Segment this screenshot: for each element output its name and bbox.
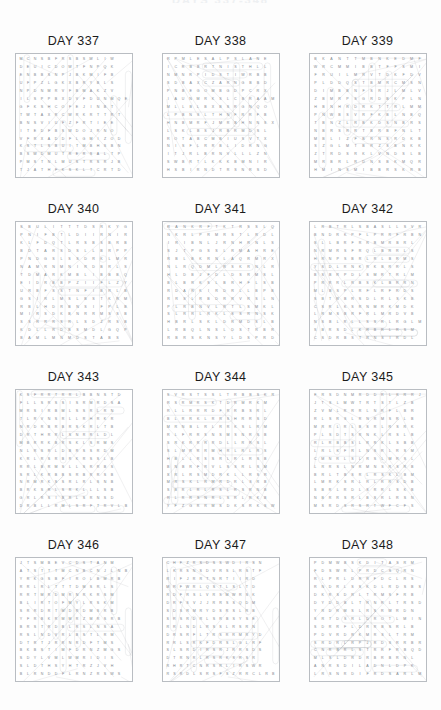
grid-letter: B	[341, 440, 348, 448]
grid-letter: S	[90, 224, 98, 232]
grid-letter: B	[181, 327, 189, 335]
grid-letter: V	[39, 119, 46, 127]
grid-letter: P	[114, 248, 122, 256]
grid-letter: R	[237, 647, 244, 655]
grid-letter	[123, 455, 130, 463]
grid-letter: M	[237, 319, 245, 327]
grid-letter	[416, 471, 423, 479]
grid-letter: R	[50, 319, 58, 327]
grid-letter: R	[379, 327, 386, 335]
grid-letter: S	[46, 455, 53, 463]
grid-letter: T	[34, 248, 42, 256]
grid-letter: R	[364, 335, 371, 343]
grid-letter	[116, 479, 123, 487]
grid-letter: K	[102, 600, 109, 608]
grid-letter: R	[379, 600, 386, 608]
word-search-grid[interactable]: BKANTTMBNKEDMFWRCMMIBBTFFSMIFRUILMRVTDKF…	[309, 53, 427, 178]
word-search-grid[interactable]: SBULITTTDSRKYGPNIFBTLDIIRNIRKLFDQTLRSBSB…	[15, 221, 133, 346]
grid-letter: R	[82, 311, 90, 319]
grid-letter: T	[384, 104, 392, 112]
grid-letter: S	[349, 432, 356, 440]
grid-letter: D	[224, 479, 231, 487]
letters-layer: RPMLESALPSLANEICRBBRTNISTHLLNMNRPIDSTIWR…	[163, 54, 279, 177]
grid-letter: R	[356, 240, 363, 248]
grid-letter	[122, 335, 130, 343]
grid-letter: S	[312, 240, 319, 248]
word-search-grid[interactable]: LRBTRLSBASLLSVRBNDRKPFLPRRFRBNSLLBRFRRBM…	[309, 221, 427, 346]
grid-letter: I	[237, 576, 244, 584]
grid-letter	[270, 584, 277, 592]
grid-letter: Z	[88, 671, 95, 679]
grid-letter: S	[349, 471, 356, 479]
word-search-grid[interactable]: SVRSTSSLTRBBSKRRSRMRSKTDRMRKMRLLRRRDFRRB…	[162, 389, 280, 514]
grid-letter: I	[90, 287, 98, 295]
grid-letter: K	[32, 104, 39, 112]
grid-letter: P	[66, 280, 74, 288]
word-search-grid[interactable]: MCNSBFRSBSWLIWDEUICDOWTFNPQKENBBSNPJBKMI…	[15, 53, 133, 178]
grid-letter: O	[379, 616, 386, 624]
grid-letter: N	[18, 88, 25, 96]
grid-letter: Q	[114, 327, 122, 335]
grid-letter: R	[122, 256, 130, 264]
word-search-grid[interactable]: RANKRFTKTRSSLQNKRLPRMRSTLRDLIRIBNLJRNHRN…	[162, 221, 280, 346]
grid-letter: Z	[336, 119, 344, 127]
grid-letter: L	[67, 671, 74, 679]
grid-letter: S	[39, 647, 46, 655]
grid-letter: M	[379, 416, 386, 424]
grid-letter: D	[334, 432, 341, 440]
grid-letter: D	[39, 127, 46, 135]
word-search-grid[interactable]: FRSDNMRDDRLKRRJJTSLMWTRTSTLZBZVMLRRRLNRF…	[309, 389, 427, 514]
grid-letter: P	[106, 303, 114, 311]
grid-letter: L	[312, 671, 319, 679]
grid-letter: K	[237, 264, 245, 272]
grid-letter: D	[341, 663, 348, 671]
grid-letter: S	[349, 455, 356, 463]
grid-letter: N	[254, 487, 261, 495]
grid-letter: T	[32, 143, 39, 151]
grid-letter: T	[53, 608, 60, 616]
grid-letter: D	[116, 167, 123, 175]
grid-letter: S	[202, 400, 209, 408]
grid-letter: R	[32, 440, 39, 448]
grid-letter: B	[371, 327, 378, 335]
grid-letter: Q	[204, 584, 211, 592]
puzzle-title: DAY 348	[342, 538, 394, 552]
grid-letter: Z	[95, 647, 102, 655]
grid-letter: F	[67, 88, 74, 96]
grid-letter: S	[217, 96, 224, 104]
grid-letter: M	[409, 272, 416, 280]
grid-letter: C	[394, 503, 401, 511]
grid-letter: S	[232, 167, 239, 175]
grid-letter: M	[209, 135, 216, 143]
grid-letter: R	[379, 495, 386, 503]
word-search-grid[interactable]: KSFRRTRRLBBNSTDFLLSRSSISRMRDSAMRSIRBMLSS…	[15, 389, 133, 514]
grid-letter: R	[205, 256, 213, 264]
grid-letter: L	[247, 151, 254, 159]
grid-letter: R	[18, 584, 25, 592]
grid-letter: T	[60, 151, 67, 159]
grid-letter	[116, 56, 123, 64]
grid-letter: R	[165, 135, 172, 143]
grid-letter: B	[18, 623, 25, 631]
grid-letter: S	[202, 432, 209, 440]
grid-letter: B	[360, 119, 368, 127]
grid-letter: D	[34, 280, 42, 288]
grid-letter: A	[42, 272, 50, 280]
grid-letter: I	[39, 408, 46, 416]
word-search-grid[interactable]: RPMLESALPSLANEICRBBRTNISTHLLNMNRPIDSTIWR…	[162, 53, 280, 178]
grid-letter: R	[364, 623, 371, 631]
word-search-grid[interactable]: CHFZRSDSSWDIRSNLKRSNSDVRSLRSTFRIFJRRTNRT…	[162, 557, 280, 682]
grid-letter: R	[211, 631, 218, 639]
word-search-grid[interactable]: JTSMBEVCDSTANMATSTTTMCNBCNJLNBYRKGSBFIRO…	[15, 557, 133, 682]
grid-letter: R	[178, 663, 185, 671]
grid-letter: L	[25, 96, 32, 104]
grid-letter: I	[53, 495, 60, 503]
word-search-grid[interactable]: PDMWBSKDITASRMFDSWRLPRDCSQRNRLPRLDRRFDCL…	[309, 557, 427, 682]
grid-letter: N	[46, 159, 53, 167]
grid-letter: F	[394, 592, 401, 600]
grid-letter: N	[224, 112, 231, 120]
grid-letter: R	[179, 400, 186, 408]
grid-letter: S	[53, 663, 60, 671]
grid-letter: S	[184, 568, 191, 576]
grid-letter: B	[172, 455, 179, 463]
